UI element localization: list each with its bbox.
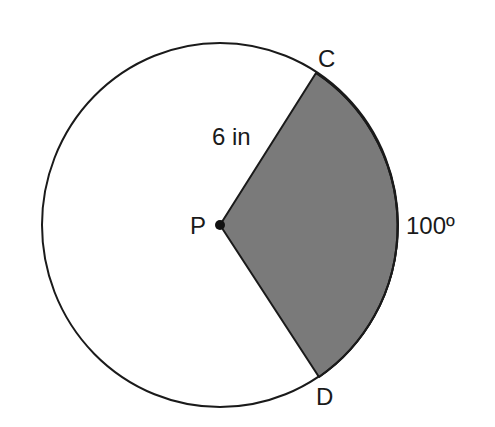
circle-diagram: C D P 6 in 100º bbox=[0, 0, 495, 427]
diagram-canvas: C D P 6 in 100º bbox=[0, 0, 495, 427]
label-angle: 100º bbox=[406, 212, 455, 239]
label-radius: 6 in bbox=[212, 123, 251, 150]
label-point-c: C bbox=[318, 45, 335, 72]
label-center-p: P bbox=[190, 212, 206, 239]
center-point bbox=[215, 220, 225, 230]
label-point-d: D bbox=[316, 383, 333, 410]
